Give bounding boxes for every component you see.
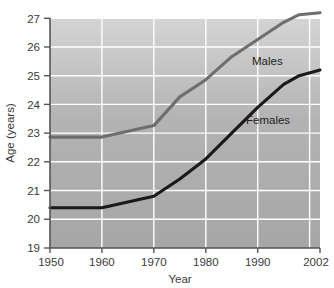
y-tick-label-19: 19	[27, 242, 40, 254]
y-tick-label-20: 20	[27, 213, 40, 225]
y-tick-label-21: 21	[27, 185, 40, 197]
y-tick-labels: 19 20 21 22 23 24 25 26 27	[27, 13, 40, 255]
x-tick-label-1960: 1960	[89, 256, 115, 268]
series-label-females: Females	[246, 114, 290, 126]
y-tick-label-26: 26	[27, 41, 40, 53]
y-tick-label-25: 25	[27, 70, 40, 82]
x-tick-label-1970: 1970	[141, 256, 167, 268]
line-chart: 19 20 21 22 23 24 25 26 27 1950 1960 197…	[0, 0, 334, 288]
x-tick-label-1980: 1980	[193, 256, 219, 268]
chart-svg: 19 20 21 22 23 24 25 26 27 1950 1960 197…	[0, 0, 334, 288]
x-tick-label-1990: 1990	[245, 256, 271, 268]
y-tick-label-23: 23	[27, 127, 40, 139]
x-tick-labels: 1950 1960 1970 1980 1990 2002	[38, 256, 329, 268]
y-axis-title: Age (years)	[4, 103, 16, 163]
y-tick-label-27: 27	[27, 13, 40, 25]
series-label-males: Males	[252, 55, 283, 67]
x-tick-label-2002: 2002	[303, 256, 329, 268]
y-tick-label-22: 22	[27, 156, 40, 168]
x-tick-label-1950: 1950	[38, 256, 64, 268]
x-axis-title: Year	[168, 273, 191, 285]
y-tick-marks	[44, 18, 50, 248]
y-tick-label-24: 24	[27, 99, 40, 111]
